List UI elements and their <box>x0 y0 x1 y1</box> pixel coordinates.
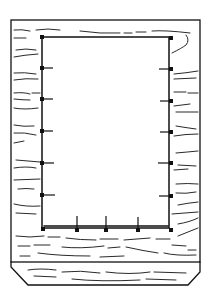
frame-opening <box>42 37 169 228</box>
frame-base <box>11 262 200 285</box>
frame-diagram <box>0 0 212 295</box>
